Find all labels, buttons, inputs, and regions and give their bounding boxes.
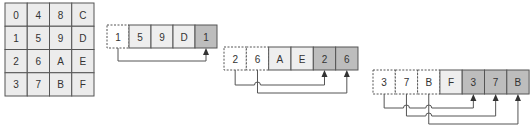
grid-cell: 9	[50, 26, 72, 49]
row-strip-1: 159D1	[107, 25, 217, 61]
arrowhead-icon	[515, 94, 521, 101]
grid-cell-label: 5	[36, 33, 42, 44]
grid-cell: A	[50, 50, 72, 73]
strip-cell-label: E	[299, 54, 306, 65]
grid-cell-label: 8	[58, 10, 64, 21]
strip-cell-label: 1	[115, 32, 121, 43]
strip-cell-original: 1	[107, 25, 129, 48]
grid-cell-label: E	[80, 56, 87, 67]
strip-cell-label: D	[180, 32, 187, 43]
strip-cell-plain: 9	[151, 25, 173, 48]
source-grid: 048C159D26AE37BF	[5, 3, 94, 96]
strip-cell-original: B	[418, 70, 440, 94]
row-strip-3: 37BF37B	[373, 70, 529, 124]
strip-cell-label: 7	[493, 77, 499, 88]
strip-cell-copy: 7	[485, 70, 507, 94]
grid-cell: 5	[27, 26, 49, 49]
grid-cell: B	[50, 73, 72, 96]
grid-cell-label: 0	[13, 10, 19, 21]
strip-cell-plain: A	[269, 47, 291, 70]
grid-cell: 7	[27, 73, 49, 96]
grid-cell-label: A	[57, 56, 64, 67]
grid-cell-label: F	[80, 79, 86, 90]
strip-cell-copy: 2	[313, 47, 335, 70]
grid-cell: 4	[27, 3, 49, 26]
arrowhead-icon	[321, 70, 327, 77]
strip-cell-copy: 1	[195, 25, 217, 48]
grid-cell: 6	[27, 50, 49, 73]
strip-cell-original: 2	[224, 47, 246, 70]
grid-cell: E	[72, 50, 94, 73]
strip-cell-label: A	[276, 54, 283, 65]
grid-cell: F	[72, 73, 94, 96]
copy-arrow	[406, 94, 495, 116]
strip-cell-plain: D	[173, 25, 195, 48]
copy-arrow	[118, 48, 206, 61]
strip-cell-label: B	[425, 77, 432, 88]
grid-cell-label: 2	[13, 56, 19, 67]
strip-cell-label: 5	[137, 32, 143, 43]
strip-cell-label: 6	[255, 54, 261, 65]
grid-cell-label: 6	[36, 56, 42, 67]
strip-cell-copy: 3	[462, 70, 484, 94]
grid-cell-label: C	[79, 10, 86, 21]
arrowhead-icon	[470, 94, 476, 101]
strip-cell-label: F	[448, 77, 454, 88]
strip-cell-label: 3	[381, 77, 387, 88]
strip-cell-copy: 6	[336, 47, 358, 70]
strip-cell-label: 1	[203, 32, 209, 43]
arrowhead-icon	[344, 70, 350, 77]
grid-cell-label: 3	[13, 79, 19, 90]
strip-cell-label: 3	[471, 77, 477, 88]
strip-cell-label: 7	[404, 77, 410, 88]
grid-cell-label: B	[57, 79, 64, 90]
grid-cell: D	[72, 26, 94, 49]
strip-cell-label: 2	[322, 54, 328, 65]
arrowhead-icon	[203, 48, 209, 55]
strip-cell-original: 6	[246, 47, 268, 70]
grid-cell: 1	[5, 26, 27, 49]
grid-cell: C	[72, 3, 94, 26]
grid-cell: 0	[5, 3, 27, 26]
grid-cell: 2	[5, 50, 27, 73]
grid-cell-label: 4	[36, 10, 42, 21]
grid-cell-label: 7	[36, 79, 42, 90]
strip-cell-plain: E	[291, 47, 313, 70]
strip-cell-plain: 5	[129, 25, 151, 48]
strip-cell-copy: B	[507, 70, 529, 94]
grid-cell-label: 1	[13, 33, 19, 44]
grid-cell: 8	[50, 3, 72, 26]
strip-cell-plain: F	[440, 70, 462, 94]
arrowhead-icon	[493, 94, 499, 101]
copy-arrow	[257, 70, 346, 93]
matrix-row-rotation-diagram: 048C159D26AE37BF 159D126AE2637BF37B	[0, 0, 532, 134]
strip-cell-label: 9	[159, 32, 165, 43]
strip-cell-original: 7	[395, 70, 417, 94]
strip-cell-original: 3	[373, 70, 395, 94]
grid-cell-label: 9	[58, 33, 64, 44]
strip-cell-label: 2	[232, 54, 238, 65]
strip-cell-label: B	[515, 77, 522, 88]
strip-cell-label: 6	[344, 54, 350, 65]
grid-cell-label: D	[79, 33, 86, 44]
row-strips: 159D126AE2637BF37B	[107, 25, 529, 124]
row-strip-2: 26AE26	[224, 47, 358, 93]
copy-arrow	[235, 70, 324, 85]
grid-cell: 3	[5, 73, 27, 96]
